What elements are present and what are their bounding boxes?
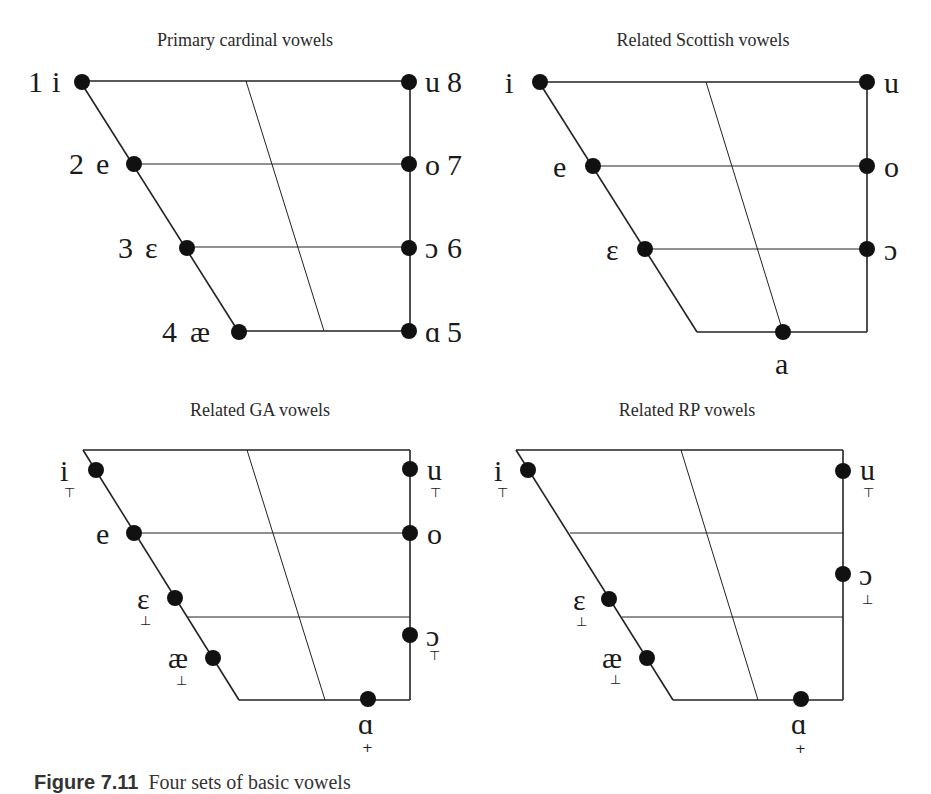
- vowel-dot: [520, 462, 536, 478]
- vowel-number: 7: [447, 148, 462, 181]
- vowel-dot: [859, 241, 875, 257]
- vowel-dot: [859, 74, 875, 90]
- vowel-dot: [74, 74, 90, 90]
- panel-title: Related GA vowels: [190, 400, 330, 420]
- vowel-labels: i ⊤ ɛ ⊥ æ ⊥ ɑ + ɔ ⊥ u ⊤: [494, 453, 875, 756]
- vowel-quadrilateral: [516, 450, 843, 700]
- vowel-number: 5: [447, 315, 462, 348]
- vowel-dot: [401, 74, 417, 90]
- vowel-symbol: u: [427, 453, 442, 486]
- vowel-symbol: æ: [190, 315, 210, 348]
- vowel-quadrilateral: [539, 82, 867, 332]
- vowel-number: 6: [447, 231, 462, 264]
- vowel-dot: [859, 158, 875, 174]
- vowel-dot: [835, 463, 851, 479]
- diacritic-lowered: ⊤: [430, 485, 441, 500]
- vowel-symbol: ɑ: [425, 315, 441, 348]
- vowel-symbol: æ: [602, 641, 622, 674]
- vowel-symbol: ɛ: [606, 233, 619, 266]
- vowel-dot: [126, 156, 142, 172]
- vowel-quadrilateral: [80, 81, 410, 331]
- diacritic-lowered: ⊤: [497, 485, 508, 500]
- vowel-dot: [88, 462, 104, 478]
- vowel-symbol: u: [884, 66, 899, 99]
- vowel-dot: [835, 566, 851, 582]
- vowel-dot: [205, 650, 221, 666]
- vowel-dot: [401, 323, 417, 339]
- vowel-symbol: ɔ: [884, 233, 897, 266]
- vowel-dots: [74, 74, 417, 340]
- vowel-symbol: e: [96, 517, 109, 550]
- vowel-number: 3: [118, 231, 133, 264]
- diacritic-advanced: +: [795, 741, 806, 756]
- diacritic-lowered: ⊤: [64, 485, 75, 500]
- vowel-dot: [793, 691, 809, 707]
- diacritic-raised: ⊥: [576, 614, 587, 629]
- vowel-labels: i e ɛ a u o ɔ: [505, 66, 899, 380]
- vowel-dot: [402, 627, 418, 643]
- vowel-dot: [401, 156, 417, 172]
- vowel-symbol: æ: [168, 641, 188, 674]
- diacritic-lowered: ⊤: [863, 485, 874, 500]
- vowel-dot: [126, 525, 142, 541]
- vowel-symbol: ɔ: [425, 231, 438, 264]
- diacritic-raised: ⊥: [176, 673, 187, 688]
- vowel-symbol: e: [553, 150, 566, 183]
- vowel-dot: [601, 591, 617, 607]
- vowel-number: 1: [28, 65, 43, 98]
- vowel-symbol: u: [425, 65, 440, 98]
- vowel-number: 8: [447, 65, 462, 98]
- vowel-symbol: i: [494, 454, 502, 487]
- vowel-symbol: ɛ: [145, 231, 158, 264]
- vowel-dot: [179, 240, 195, 256]
- vowel-dot: [402, 461, 418, 477]
- vowel-symbol: ɑ: [358, 707, 374, 740]
- diacritic-advanced: +: [362, 740, 373, 755]
- vowel-symbol: a: [775, 347, 788, 380]
- vowel-symbol: o: [884, 150, 899, 183]
- vowel-dot: [639, 650, 655, 666]
- vowel-dot: [775, 324, 791, 340]
- vowel-dots: [520, 462, 851, 707]
- vowel-dot: [585, 158, 601, 174]
- vowel-symbol: ɔ: [859, 558, 872, 591]
- vowel-symbol: i: [60, 454, 68, 487]
- vowel-dot: [231, 324, 247, 340]
- vowel-symbol: ɛ: [573, 583, 586, 616]
- diacritic-lowered: ⊤: [429, 648, 440, 663]
- vowel-dot: [360, 691, 376, 707]
- vowel-dot: [532, 74, 548, 90]
- figure-caption: Figure 7.11 Four sets of basic vowels: [34, 771, 351, 794]
- panel-ga: Related GA vowels i ⊤ e ɛ ⊥ æ: [60, 400, 442, 755]
- vowel-dot: [401, 240, 417, 256]
- vowel-symbol: o: [427, 517, 442, 550]
- vowel-dot: [167, 590, 183, 606]
- vowel-symbol: ɑ: [791, 707, 807, 740]
- vowel-labels: i ⊤ e ɛ ⊥ æ ⊥ ɑ + ɔ ⊤ o u ⊤: [60, 453, 442, 755]
- figure-caption-text: Four sets of basic vowels: [149, 771, 351, 793]
- diacritic-raised: ⊥: [610, 672, 621, 687]
- vowel-labels: 1 i 2 e 3 ɛ 4 æ u 8 o 7 ɔ 6 ɑ 5: [28, 65, 462, 348]
- panel-scottish: Related Scottish vowels i e ɛ a u o: [505, 30, 899, 380]
- vowel-number: 2: [69, 147, 84, 180]
- vowel-dot: [637, 241, 653, 257]
- vowel-symbol: ɛ: [137, 582, 150, 615]
- vowel-symbol: u: [860, 453, 875, 486]
- panel-primary-cardinal: Primary cardinal vowels 1 i 2 e 3: [28, 30, 462, 348]
- figure-caption-label: Figure 7.11: [34, 771, 139, 793]
- vowel-symbol: i: [505, 66, 513, 99]
- vowel-dot: [402, 525, 418, 541]
- diacritic-raised: ⊥: [140, 613, 151, 628]
- panel-title: Related Scottish vowels: [617, 30, 790, 50]
- vowel-quadrilateral: [83, 450, 410, 700]
- vowel-symbol: o: [425, 148, 440, 181]
- vowel-number: 4: [162, 315, 177, 348]
- panel-title: Related RP vowels: [619, 400, 755, 420]
- panel-title: Primary cardinal vowels: [157, 30, 333, 50]
- diacritic-raised-less-rounded: ⊥: [862, 592, 873, 607]
- vowel-symbol: i: [52, 65, 60, 98]
- vowel-symbol: e: [96, 147, 109, 180]
- panel-rp: Related RP vowels i ⊤ ɛ ⊥ æ ⊥ ɑ +: [494, 400, 875, 756]
- vowel-dots: [532, 74, 875, 340]
